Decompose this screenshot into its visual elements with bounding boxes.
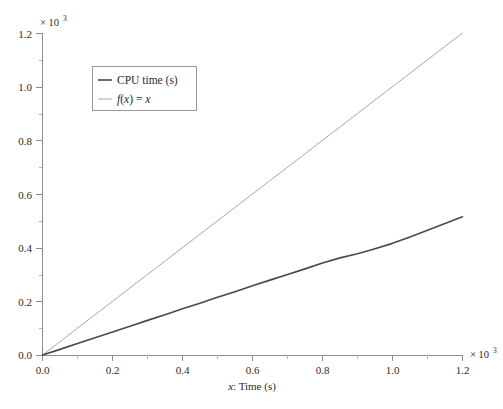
- x-tick-label: 1.0: [386, 364, 400, 376]
- x-multiplier-base: × 10: [470, 349, 489, 360]
- x-tick-label: 0.6: [246, 364, 260, 376]
- chart-legend: CPU time (s) f(x) = x: [93, 67, 197, 111]
- x-tick-label: 0.2: [106, 364, 120, 376]
- line-chart: 0.0 0.2 0.4 0.6 0.8 1.0 1.2 0.0 0.2 0.4 …: [0, 0, 503, 409]
- x-axis-title-rest: : Time (s): [233, 380, 276, 393]
- x-tick-label: 0.8: [316, 364, 330, 376]
- x-axis-multiplier: × 10 3: [470, 346, 497, 360]
- y-tick-label: 0.6: [18, 189, 32, 201]
- y-axis-multiplier: × 10 3: [40, 14, 67, 28]
- series-line-cpu-time: [43, 217, 463, 355]
- x-tick-label: 0.0: [36, 364, 50, 376]
- legend-label-cpu-time: CPU time (s): [117, 74, 178, 87]
- x-tick-label: 0.4: [176, 364, 190, 376]
- chart-figure: 0.0 0.2 0.4 0.6 0.8 1.0 1.2 0.0 0.2 0.4 …: [0, 0, 503, 409]
- x-axis-tick-labels: 0.0 0.2 0.4 0.6 0.8 1.0 1.2: [36, 364, 470, 376]
- y-multiplier-base: × 10: [40, 17, 59, 28]
- legend-identity-eq: =: [133, 93, 145, 105]
- x-multiplier-exponent: 3: [493, 346, 497, 355]
- y-tick-label: 0.8: [18, 135, 32, 147]
- legend-label-identity: f(x) = x: [117, 93, 151, 106]
- y-axis-major-ticks: [36, 34, 42, 356]
- y-tick-label: 1.0: [18, 81, 32, 93]
- y-tick-label: 1.2: [18, 28, 32, 40]
- legend-identity-x2: x: [144, 93, 151, 105]
- y-tick-label: 0.4: [18, 242, 32, 254]
- y-axis-tick-labels: 0.0 0.2 0.4 0.6 0.8 1.0 1.2: [18, 28, 32, 362]
- y-tick-label: 0.0: [18, 349, 32, 361]
- y-multiplier-exponent: 3: [63, 14, 67, 23]
- x-tick-label: 1.2: [456, 364, 470, 376]
- y-tick-label: 0.2: [18, 296, 32, 308]
- x-axis-title: x: Time (s): [227, 380, 276, 393]
